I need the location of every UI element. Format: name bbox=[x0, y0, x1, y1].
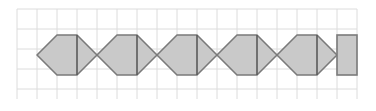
end-square-right bbox=[337, 35, 357, 75]
hexagon-chain-figure bbox=[0, 0, 376, 111]
figure-root bbox=[0, 0, 376, 111]
